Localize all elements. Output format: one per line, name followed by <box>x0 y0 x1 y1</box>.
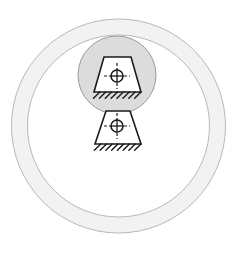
figure-canvas <box>0 0 237 258</box>
technical-diagram <box>0 0 237 258</box>
